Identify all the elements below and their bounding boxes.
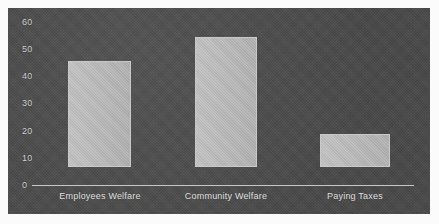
y-tick-label-30: 30: [22, 99, 32, 108]
y-tick-label-0: 0: [22, 181, 27, 190]
bar-community-welfare[interactable]: [195, 37, 257, 167]
plot-canvas: 60 50 40 30 20 10 0 Employees Welfare Co…: [8, 8, 430, 214]
y-tick-label-20: 20: [22, 127, 32, 136]
y-tick-label-40: 40: [22, 72, 32, 81]
y-tick-label-60: 60: [22, 18, 32, 27]
bar-employees-welfare[interactable]: [68, 61, 131, 167]
plot-area: 60 50 40 30 20 10 0 Employees Welfare Co…: [8, 8, 430, 214]
bar-chart-figure: 60 50 40 30 20 10 0 Employees Welfare Co…: [0, 0, 439, 224]
bar-paying-taxes[interactable]: [320, 134, 390, 167]
x-axis-line: [32, 185, 414, 186]
x-category-label-paying-taxes: Paying Taxes: [327, 192, 383, 201]
y-tick-label-10: 10: [22, 154, 32, 163]
y-tick-label-50: 50: [22, 45, 32, 54]
x-category-label-community-welfare: Community Welfare: [185, 192, 267, 201]
x-category-label-employees-welfare: Employees Welfare: [59, 192, 140, 201]
